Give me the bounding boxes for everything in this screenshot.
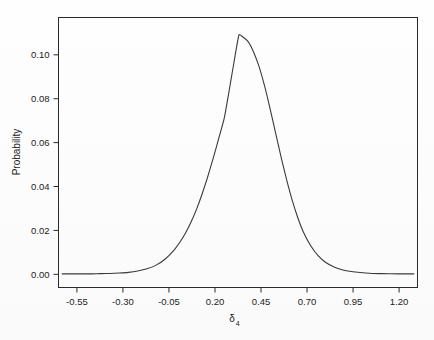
y-axis-title-label: Probability (11, 129, 22, 176)
x-tick-label: -0.30 (112, 296, 134, 307)
y-tick-label: 0.02 (31, 225, 50, 236)
x-axis-ticks: -0.55-0.30-0.050.200.450.700.951.20 (66, 288, 408, 307)
plot-frame (59, 18, 418, 288)
x-tick-label: -0.05 (158, 296, 180, 307)
x-axis-title-label: δ (229, 313, 235, 324)
x-tick-label: 0.70 (298, 296, 317, 307)
figure-canvas: -0.55-0.30-0.050.200.450.700.951.20 0.00… (0, 0, 434, 340)
x-axis-title-subscript: 4 (236, 320, 240, 327)
x-tick-label: -0.55 (66, 296, 88, 307)
y-tick-label: 0.06 (31, 137, 50, 148)
x-tick-label: 0.20 (206, 296, 225, 307)
x-axis-title: δ 4 (229, 313, 239, 327)
y-tick-label: 0.08 (31, 93, 50, 104)
x-tick-label: 0.45 (252, 296, 271, 307)
y-tick-label: 0.04 (31, 181, 50, 192)
y-tick-label: 0.00 (31, 269, 50, 280)
probability-density-chart: -0.55-0.30-0.050.200.450.700.951.20 0.00… (0, 0, 434, 340)
y-tick-label: 0.10 (31, 49, 50, 60)
density-curve-line (62, 35, 414, 274)
x-tick-label: 1.20 (390, 296, 409, 307)
x-tick-label: 0.95 (344, 296, 363, 307)
y-axis-ticks: 0.000.020.040.060.080.10 (31, 49, 59, 280)
